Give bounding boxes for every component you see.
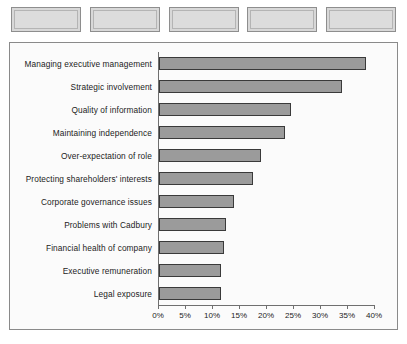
bar [159, 241, 224, 254]
axis-tick-label: 5% [179, 311, 191, 320]
axis-tick-label: 25% [285, 311, 301, 320]
toolbar-button-4[interactable] [247, 7, 317, 32]
bar [159, 103, 291, 116]
category-label: Problems with Cadbury [10, 213, 157, 236]
bar-row [159, 167, 374, 190]
axis-tick [212, 305, 213, 309]
axis-tick-label: 35% [339, 311, 355, 320]
bar [159, 195, 234, 208]
axis-tick [347, 305, 348, 309]
bar-row [159, 75, 374, 98]
bar-row [159, 121, 374, 144]
toolbar-button-2-face [93, 10, 157, 29]
axis-tick-label: 10% [204, 311, 220, 320]
axis-tick [266, 305, 267, 309]
bar-row [159, 259, 374, 282]
axis-tick [374, 305, 375, 309]
category-label: Executive remuneration [10, 259, 157, 282]
bar [159, 126, 285, 139]
category-axis-labels: Managing executive managementStrategic i… [10, 52, 157, 305]
axis-tick [185, 305, 186, 309]
toolbar-button-2[interactable] [90, 7, 160, 32]
toolbar [0, 0, 407, 38]
bar-series [159, 52, 374, 305]
chart-frame: Managing executive managementStrategic i… [9, 42, 398, 330]
bar-row [159, 236, 374, 259]
bar-row [159, 52, 374, 75]
toolbar-button-1[interactable] [11, 7, 81, 32]
axis-tick-label: 0% [152, 311, 164, 320]
bar-row [159, 144, 374, 167]
plot-area [158, 52, 374, 305]
axis-tick [239, 305, 240, 309]
toolbar-button-3-face [172, 10, 236, 29]
bar [159, 80, 342, 93]
bar [159, 287, 221, 300]
axis-tick-label: 15% [231, 311, 247, 320]
axis-tick-label: 40% [366, 311, 382, 320]
category-label: Quality of information [10, 98, 157, 121]
category-label: Corporate governance issues [10, 190, 157, 213]
axis-tick-label: 30% [312, 311, 328, 320]
bar [159, 264, 221, 277]
category-label: Over-expectation of role [10, 144, 157, 167]
toolbar-button-4-face [250, 10, 314, 29]
bar [159, 149, 261, 162]
toolbar-button-5-face [329, 10, 393, 29]
bar-row [159, 98, 374, 121]
axis-tick-label: 20% [258, 311, 274, 320]
category-label: Financial health of company [10, 236, 157, 259]
toolbar-button-1-face [14, 10, 78, 29]
value-axis: 0%5%10%15%20%25%30%35%40% [158, 305, 374, 329]
bar [159, 218, 226, 231]
category-label: Protecting shareholders' interests [10, 167, 157, 190]
bar [159, 172, 253, 185]
toolbar-button-5[interactable] [326, 7, 396, 32]
bar-row [159, 213, 374, 236]
axis-tick [158, 305, 159, 309]
category-label: Maintaining independence [10, 121, 157, 144]
bar-row [159, 190, 374, 213]
axis-tick [293, 305, 294, 309]
category-label: Strategic involvement [10, 75, 157, 98]
bar-row [159, 282, 374, 305]
chart-plot-wrapper: Managing executive managementStrategic i… [10, 43, 397, 329]
category-label: Legal exposure [10, 282, 157, 305]
category-label: Managing executive management [10, 52, 157, 75]
axis-tick [320, 305, 321, 309]
bar [159, 57, 366, 70]
toolbar-button-3[interactable] [169, 7, 239, 32]
